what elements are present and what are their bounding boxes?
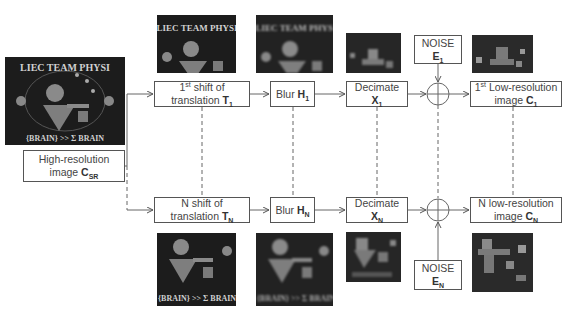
output-label-line2: image C1 — [494, 94, 537, 107]
blurred-image-n: {BRAIN} >> Σ BRAIN — [256, 233, 333, 306]
high-resolution-image: LIEC TEAM PHYSI {BRAIN} >> Σ BRAIN — [5, 57, 125, 145]
decimate-label: Decimate — [355, 81, 399, 94]
output-label-line2: image CN — [494, 210, 538, 223]
shift-label-line1: N shift of — [181, 197, 222, 210]
noise-symbol: E1 — [433, 50, 444, 63]
noise-box-1: NOISE E1 — [414, 35, 462, 64]
blur-box-n: Blur HN — [270, 197, 315, 223]
blur-label: Blur H1 — [276, 88, 309, 101]
svg-text:LIEC TEAM PHYSI: LIEC TEAM PHYSI — [20, 62, 110, 73]
svg-text:LIEC TEAM PHYSI: LIEC TEAM PHYSI — [157, 23, 236, 33]
decimated-image-1 — [346, 33, 401, 73]
svg-text:LIEC TEAM PHYSI: LIEC TEAM PHYSI — [256, 23, 333, 33]
decimate-symbol: X1 — [372, 94, 383, 107]
blurred-image-1: LIEC TEAM PHYSI — [256, 15, 333, 73]
shift-label-line2: translation TN — [171, 210, 234, 223]
noise-label: NOISE — [422, 262, 455, 275]
output-label-line1: 1st Low-resolution — [475, 81, 558, 94]
shift-translation-box-1: 1st shift of translation T1 — [154, 81, 250, 107]
blur-box-1: Blur H1 — [270, 81, 315, 107]
source-label-line2: image CSR — [50, 166, 99, 179]
noise-label: NOISE — [422, 37, 455, 50]
high-resolution-image-box: High-resolution image CSR — [23, 150, 125, 182]
noise-box-n: NOISE EN — [414, 260, 462, 290]
logo-image: LIEC TEAM PHYSI {BRAIN} >> Σ BRAIN — [5, 57, 125, 145]
decimate-box-1: Decimate X1 — [346, 81, 408, 107]
shifted-image-1: LIEC TEAM PHYSI — [157, 15, 236, 73]
low-resolution-image-n — [472, 233, 533, 292]
shift-translation-box-n: N shift of translation TN — [154, 197, 250, 223]
source-label-line1: High-resolution — [39, 153, 110, 166]
decimate-label: Decimate — [355, 197, 399, 210]
low-resolution-output-box-1: 1st Low-resolution image C1 — [470, 81, 562, 107]
shift-label-line2: translation T1 — [171, 94, 233, 107]
blur-label: Blur HN — [275, 204, 309, 217]
decimate-box-n: Decimate XN — [346, 197, 408, 223]
decimate-symbol: XN — [371, 210, 383, 223]
svg-text:{BRAIN} >> Σ BRAIN: {BRAIN} >> Σ BRAIN — [257, 294, 333, 303]
low-resolution-image-1 — [472, 35, 533, 73]
svg-text:{BRAIN} >> Σ BRAIN: {BRAIN} >> Σ BRAIN — [158, 294, 236, 303]
shift-label-line1: 1st shift of — [179, 81, 224, 94]
output-label-line1: N low-resolution — [478, 197, 553, 210]
low-resolution-output-box-n: N low-resolution image CN — [470, 197, 562, 223]
shifted-image-n: {BRAIN} >> Σ BRAIN — [157, 233, 236, 306]
noise-symbol: EN — [432, 275, 444, 288]
svg-text:{BRAIN} >> Σ BRAIN: {BRAIN} >> Σ BRAIN — [26, 134, 104, 143]
decimated-image-n — [346, 232, 401, 282]
